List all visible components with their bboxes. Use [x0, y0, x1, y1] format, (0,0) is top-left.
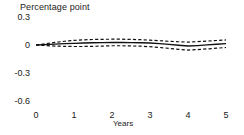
point-estimate-line	[36, 42, 226, 46]
plot-area	[0, 0, 244, 135]
chart-container: Percentage point 0.3 0 -0.3 -0.6 0 1 2 3…	[0, 0, 244, 135]
